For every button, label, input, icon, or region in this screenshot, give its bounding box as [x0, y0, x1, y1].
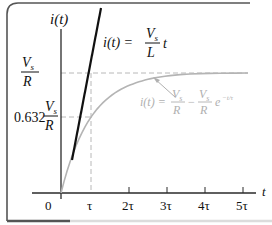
level-0632-num: Vs [45, 99, 58, 116]
tick-label-5tau: 5τ [236, 198, 248, 213]
exp-equation-term1-den: R [172, 103, 181, 117]
linear-equation-suffix: t [163, 36, 168, 51]
tick-label-tau: τ [87, 198, 92, 213]
tick-label-4tau: 4τ [198, 198, 210, 213]
tick-label-0: 0 [45, 198, 52, 213]
initial-slope-line [72, 8, 101, 160]
linear-equation-prefix: i(t) = [103, 35, 133, 51]
exponential-curve [61, 73, 248, 193]
tick-label-3tau: 3τ [160, 198, 172, 213]
final-value-label-den: R [22, 74, 32, 89]
exp-equation-prefix: i(t) = [140, 95, 166, 109]
y-axis-label: i(t) [50, 11, 68, 28]
x-axis-label: t [262, 184, 266, 199]
linear-equation-num: Vs [146, 26, 159, 43]
exp-equation-minus: − [188, 95, 195, 109]
exp-equation-term2-den: R [199, 103, 208, 117]
exp-equation-exponent: −t/τ [222, 94, 234, 102]
exp-equation-e: e [215, 95, 221, 109]
level-0632-den: R [44, 118, 54, 133]
exp-equation-term2-num: Vs [199, 87, 209, 103]
final-value-label-num: Vs [22, 55, 35, 72]
exp-equation-term1-num: Vs [172, 87, 182, 103]
linear-equation-den: L [146, 45, 155, 60]
rl-step-response-chart: i(t) Vs R 0.632 Vs R i(t) = Vs L t i(t) … [0, 0, 272, 225]
tick-label-2tau: 2τ [122, 198, 134, 213]
coef-0632-label: 0.632 [14, 110, 46, 125]
